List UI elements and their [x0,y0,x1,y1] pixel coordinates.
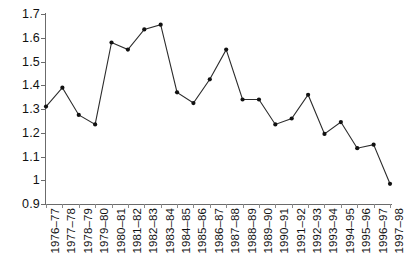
y-axis-tick [41,109,45,110]
x-axis-tick [193,204,194,208]
x-axis-tick [144,204,145,208]
x-axis-tick-label: 1993–94 [328,208,340,253]
x-axis-tick-label: 1985–86 [197,208,209,253]
data-point [372,143,376,147]
x-axis-tick-label: 1979–80 [99,208,111,253]
x-axis-tick-label: 1994–95 [345,208,357,253]
x-axis-tick-label: 1989–90 [263,208,275,253]
data-point [322,132,326,136]
x-axis-tick-label: 1976–77 [50,208,62,253]
x-axis-tick [324,204,325,208]
y-axis-tick [41,38,45,39]
x-axis-tick [390,204,391,208]
y-axis-tick [41,14,45,15]
x-axis-tick-label: 1980–81 [116,208,128,253]
x-axis-tick-label: 1995–96 [361,208,373,253]
x-axis-tick-label: 1996–97 [378,208,390,253]
x-axis-tick [177,204,178,208]
x-axis-tick [95,204,96,208]
x-axis-tick-label: 1997–98 [394,208,406,253]
x-axis-tick [357,204,358,208]
x-axis-tick-label: 1986–87 [214,208,226,253]
x-axis-tick [62,204,63,208]
data-point [208,77,212,81]
series-line [46,25,390,184]
data-point [306,93,310,97]
x-axis-tick [292,204,293,208]
x-axis-tick [374,204,375,208]
data-point [273,122,277,126]
x-axis-tick [46,204,47,208]
y-axis-tick [41,157,45,158]
x-axis-tick-label: 1977–78 [66,208,78,253]
x-axis-tick-label: 1987–88 [230,208,242,253]
x-axis-tick-label: 1992–93 [312,208,324,253]
series-markers [44,23,392,186]
x-axis-tick-label: 1978–79 [83,208,95,253]
x-axis-tick [210,204,211,208]
data-point [191,101,195,105]
x-axis-tick [112,204,113,208]
data-point [257,97,261,101]
data-point [240,97,244,101]
data-point [290,116,294,120]
x-axis-tick [259,204,260,208]
data-point [60,86,64,90]
y-axis-tick [41,180,45,181]
x-axis-tick-label: 1982–83 [148,208,160,253]
x-axis-tick [161,204,162,208]
x-axis-tick-label: 1991–92 [296,208,308,253]
data-point [93,122,97,126]
data-point [126,48,130,52]
x-axis-tick-label: 1988–89 [247,208,259,253]
data-point [77,113,81,117]
x-axis-tick-labels: 1976–771977–781978–791979–801980–811981–… [46,206,390,274]
x-axis-tick-label: 1984–85 [181,208,193,253]
x-axis-tick [128,204,129,208]
data-point [175,90,179,94]
data-point [388,182,392,186]
x-axis-tick [341,204,342,208]
data-point [224,48,228,52]
data-point [142,27,146,31]
y-axis-tick [41,62,45,63]
x-axis-tick-label: 1983–84 [165,208,177,253]
x-axis-tick [79,204,80,208]
data-point [339,120,343,124]
y-axis-tick [41,204,45,205]
x-axis-tick [275,204,276,208]
x-axis-tick [308,204,309,208]
x-axis-tick [226,204,227,208]
data-point [355,146,359,150]
data-point [109,40,113,44]
x-axis-tick-label: 1990–91 [279,208,291,253]
x-axis-tick [243,204,244,208]
y-axis-tick [41,85,45,86]
data-point [159,23,163,27]
x-axis-tick-label: 1981–82 [132,208,144,253]
y-axis-tick [41,133,45,134]
